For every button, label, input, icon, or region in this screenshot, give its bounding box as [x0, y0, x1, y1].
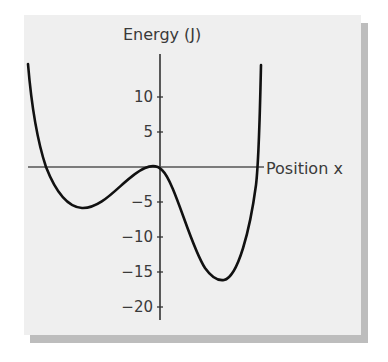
y-tick-label: −5 [113, 195, 153, 210]
y-axis-label: Energy (J) [123, 27, 201, 43]
y-tick-label: −10 [113, 230, 153, 245]
y-tick-label: 10 [113, 90, 153, 105]
y-tick-label: 5 [113, 125, 153, 140]
y-tick-label: −20 [113, 300, 153, 315]
energy-plot [0, 0, 388, 362]
x-axis-label: Position x [266, 161, 343, 177]
y-tick-label: −15 [113, 265, 153, 280]
